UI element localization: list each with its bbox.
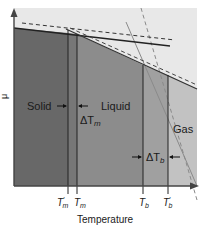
- tick-label-tm: Tm: [74, 197, 86, 209]
- liquid-label: Liquid: [101, 100, 130, 112]
- phase-diagram: Solid Liquid Gas ΔTm ΔTb T′m Tm Tb T′b T…: [0, 0, 207, 232]
- y-axis-label: μ: [0, 94, 9, 99]
- x-axis-label: Temperature: [77, 214, 134, 225]
- tick-label-tm-prime: T′m: [57, 196, 68, 209]
- tick-label-tb: Tb: [139, 197, 149, 209]
- gas-label: Gas: [173, 123, 194, 135]
- tick-label-tb-prime: T′b: [163, 196, 172, 209]
- boiling-shift-band: [143, 65, 168, 186]
- solid-label: Solid: [27, 100, 51, 112]
- melting-shift-band: [68, 33, 77, 186]
